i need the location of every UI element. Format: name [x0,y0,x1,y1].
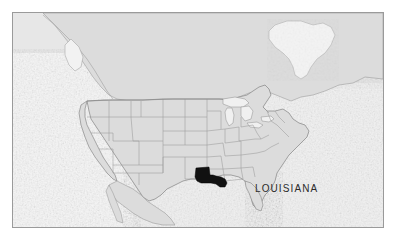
map-frame: LOUISIANA [12,12,384,228]
locator-map-figure: LOUISIANA [0,0,397,243]
map-canvas [13,13,383,227]
hudson-bay-texture [267,19,339,81]
